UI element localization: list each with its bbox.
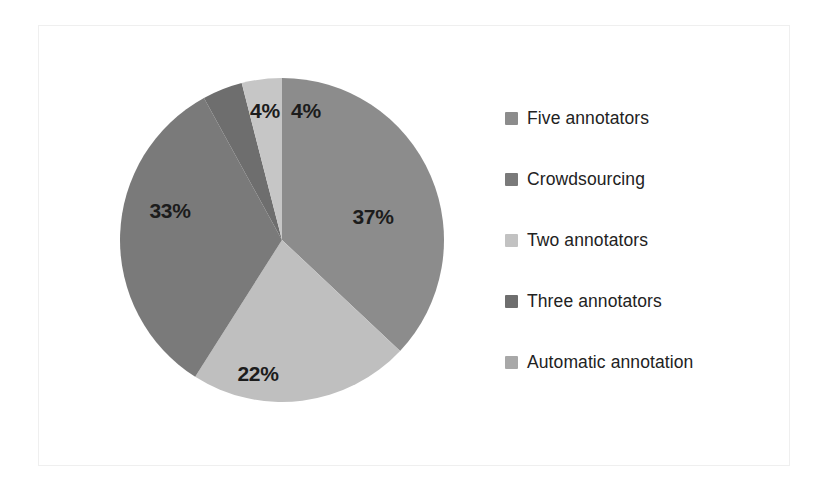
legend-item-label: Three annotators xyxy=(527,291,662,312)
legend-item[interactable]: Automatic annotation xyxy=(505,332,780,393)
pie-slice-value-label: 37% xyxy=(352,205,394,228)
legend-item-label: Crowdsourcing xyxy=(527,169,645,190)
pie-slice-value-label: 4% xyxy=(291,99,321,122)
pie-slice-group xyxy=(120,78,444,402)
legend-item-label: Two annotators xyxy=(527,230,648,251)
legend-item[interactable]: Five annotators xyxy=(505,88,780,149)
legend-color-swatch-icon xyxy=(505,356,518,369)
pie-chart-plot-area: 37%22%33%4%4% xyxy=(110,60,460,425)
legend-item[interactable]: Three annotators xyxy=(505,271,780,332)
pie-slice-value-label: 22% xyxy=(237,362,279,385)
legend-color-swatch-icon xyxy=(505,173,518,186)
legend-item[interactable]: Two annotators xyxy=(505,210,780,271)
legend-item-label: Automatic annotation xyxy=(527,352,693,373)
legend-color-swatch-icon xyxy=(505,295,518,308)
legend-item-label: Five annotators xyxy=(527,108,649,129)
chart-legend: Five annotatorsCrowdsourcingTwo annotato… xyxy=(505,88,780,393)
pie-slice-value-label: 33% xyxy=(149,199,191,222)
legend-color-swatch-icon xyxy=(505,234,518,247)
legend-color-swatch-icon xyxy=(505,112,518,125)
pie-svg: 37%22%33%4%4% xyxy=(110,60,460,425)
legend-item[interactable]: Crowdsourcing xyxy=(505,149,780,210)
pie-slice-value-label: 4% xyxy=(250,99,280,122)
pie-chart-figure: 37%22%33%4%4% Five annotatorsCrowdsourci… xyxy=(0,0,821,486)
